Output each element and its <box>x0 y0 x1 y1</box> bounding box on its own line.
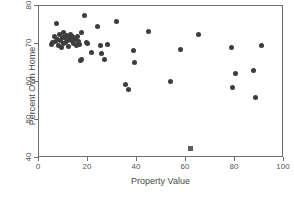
plot-panel <box>38 5 283 157</box>
data-point <box>196 32 201 37</box>
data-point <box>230 85 235 90</box>
data-point <box>126 87 131 92</box>
data-point <box>251 68 256 73</box>
data-point <box>89 50 94 55</box>
data-point <box>99 51 104 56</box>
data-point <box>168 79 173 84</box>
data-point <box>131 48 136 53</box>
data-point <box>233 71 238 76</box>
data-point <box>95 24 100 29</box>
data-point <box>114 19 119 24</box>
data-point <box>77 42 82 47</box>
x-axis-tick <box>283 157 284 161</box>
data-point <box>54 21 59 26</box>
scatter-chart-figure: 0204060801004050607080 Property Value Pe… <box>0 0 294 202</box>
x-axis-tick <box>38 157 39 161</box>
data-point <box>259 43 264 48</box>
x-axis-tick-label: 60 <box>181 162 190 171</box>
data-point <box>85 41 90 46</box>
x-axis-label: Property Value <box>38 176 283 186</box>
data-point <box>253 95 258 100</box>
data-point <box>102 57 107 62</box>
x-axis-tick <box>234 157 235 161</box>
data-point-outlier <box>188 146 193 151</box>
y-axis-tick <box>34 5 38 6</box>
y-axis-label: Percent Own Home <box>27 10 37 162</box>
data-points-layer <box>39 6 282 156</box>
data-point <box>98 43 103 48</box>
data-point <box>79 30 84 35</box>
data-point <box>146 29 151 34</box>
x-axis-tick-label: 100 <box>276 162 289 171</box>
data-point <box>79 57 84 62</box>
x-axis-tick <box>136 157 137 161</box>
x-axis-tick-label: 0 <box>36 162 40 171</box>
x-axis-tick-label: 40 <box>132 162 141 171</box>
x-axis-tick <box>185 157 186 161</box>
data-point <box>229 45 234 50</box>
x-axis-tick-label: 20 <box>83 162 92 171</box>
data-point <box>105 42 110 47</box>
data-point <box>66 44 71 49</box>
data-point <box>59 45 64 50</box>
data-point <box>132 60 137 65</box>
x-axis-tick <box>87 157 88 161</box>
x-axis-tick-label: 80 <box>230 162 239 171</box>
data-point <box>82 13 87 18</box>
data-point <box>178 47 183 52</box>
